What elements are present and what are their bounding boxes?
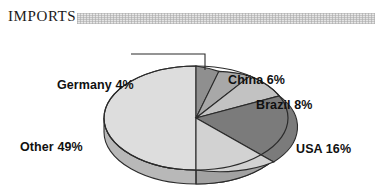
imports-pie-chart-figure: IMPORTS (0, 0, 382, 196)
pie-chart-svg (0, 30, 382, 196)
pie-label-other: Other 49% (20, 140, 83, 154)
decorative-gradient-bar (77, 13, 375, 24)
page-title: IMPORTS (8, 8, 76, 25)
figure-header: IMPORTS (0, 0, 382, 34)
pie-label-germany: Germany 4% (57, 78, 134, 92)
pie-label-usa: USA 16% (296, 142, 351, 156)
pie-chart-canvas: Germany 4% China 6% Brazil 8% USA 16% Ar… (0, 30, 382, 196)
pie-label-china: China 6% (228, 73, 285, 87)
pie-label-brazil: Brazil 8% (256, 98, 312, 112)
